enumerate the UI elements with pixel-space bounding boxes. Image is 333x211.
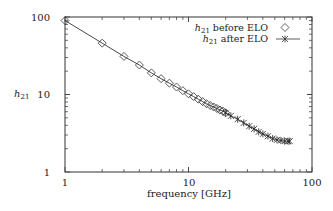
star-line-marker-icon: [276, 36, 300, 43]
plot-frame: [65, 17, 312, 172]
star-marker: [235, 116, 241, 123]
minor-ticks: [65, 17, 312, 172]
star-marker: [241, 119, 247, 126]
series-after-elo: [223, 109, 293, 144]
x-axis-label: frequency [GHz]: [147, 188, 231, 199]
legend-after-label: h21after ELO: [203, 33, 268, 46]
diamond-marker-icon: [281, 24, 289, 32]
star-marker: [223, 109, 229, 116]
y-tick-10: 10: [37, 89, 50, 100]
y-tick-100: 100: [31, 12, 50, 23]
y-tick-1: 1: [44, 167, 50, 178]
legend: h21before ELO h21after ELO: [195, 22, 300, 46]
star-marker: [228, 112, 234, 119]
y-axis-label: h21: [14, 88, 29, 101]
x-tick-10: 10: [183, 177, 196, 188]
chart-svg: 100 10 1 1 10 100 frequency [GHz] h21 h2…: [0, 0, 333, 211]
x-tick-1: 1: [62, 177, 68, 188]
x-tick-100: 100: [302, 177, 321, 188]
